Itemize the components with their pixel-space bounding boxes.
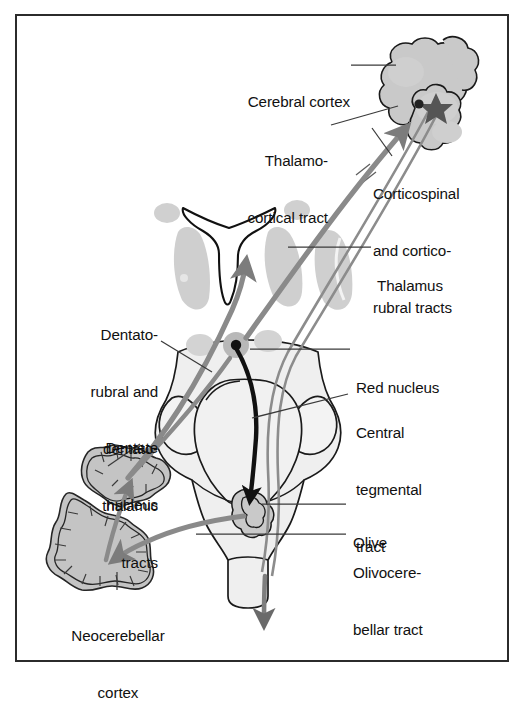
label-dentate-nucleus-line1: Dentate xyxy=(24,438,158,457)
label-thalamocortical-tract: Thalamo- cortical tract xyxy=(170,113,328,265)
label-neocerebellar-line2: cortex xyxy=(28,683,208,702)
label-dentate-nucleus: Dentate nucleus xyxy=(24,400,158,552)
label-olivocerebellar-line2: bellar tract xyxy=(353,620,493,639)
label-thalamus-line1: Thalamus xyxy=(377,276,507,295)
label-olivocerebellar-tract: Olivocere- bellar tract xyxy=(353,525,493,677)
descending-corticospinal-path xyxy=(264,576,265,624)
label-central-tegmental-line1: Central xyxy=(356,423,486,442)
label-neocerebellar-cortex: Neocerebellar cortex xyxy=(28,588,208,702)
label-cerebral-cortex-line1: Cerebral cortex xyxy=(192,92,350,111)
label-thalamus: Thalamus xyxy=(377,238,507,333)
label-dentatorubral-line1: Dentato- xyxy=(24,325,158,344)
label-thalamocortical-line2: cortical tract xyxy=(170,208,328,227)
label-corticospinal-line1: Corticospinal xyxy=(373,184,513,203)
cerebral-cortex-shape xyxy=(379,37,478,150)
label-dentatorubral-line5: tracts xyxy=(24,553,158,572)
label-neocerebellar-line1: Neocerebellar xyxy=(28,626,208,645)
label-thalamocortical-line1: Thalamo- xyxy=(170,151,328,170)
label-dentate-nucleus-line2: nucleus xyxy=(24,495,158,514)
label-dentatorubral-line2: rubral and xyxy=(24,382,158,401)
label-olivocerebellar-line1: Olivocere- xyxy=(353,563,493,582)
